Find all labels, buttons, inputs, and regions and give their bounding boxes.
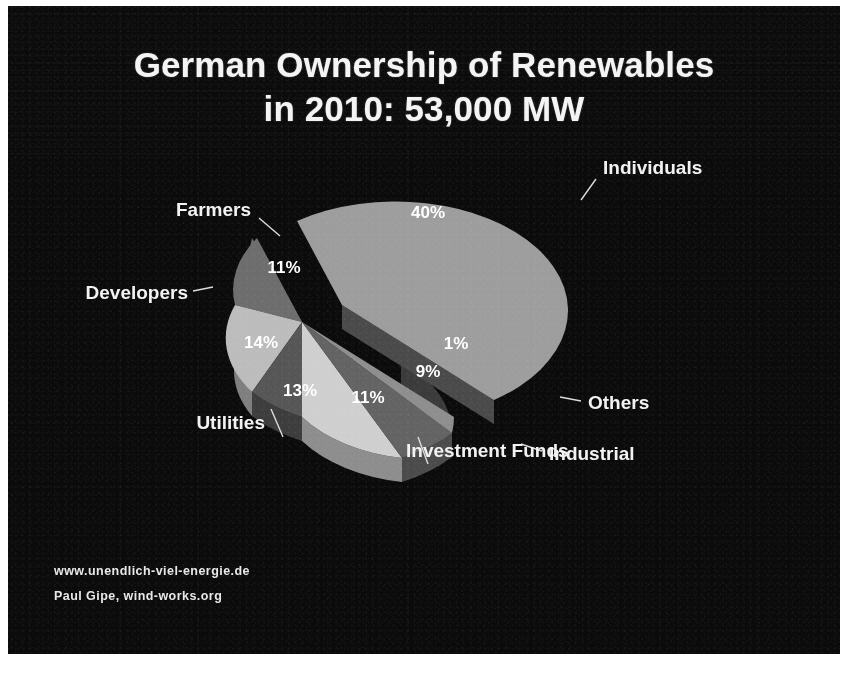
pct-investment-funds: 11% [351,388,384,407]
slide-canvas: German Ownership of Renewables in 2010: … [8,6,840,654]
pie-chart-svg: 40% 11% 14% 13% 11% 9% 1% Individuals [8,124,840,584]
leader-line-developers [193,287,213,291]
label-industrial: Industrial [549,443,635,464]
credits-block: www.unendlich-viel-energie.de Paul Gipe,… [54,559,250,610]
leader-line-farmers [259,218,280,236]
label-farmers: Farmers [176,199,251,220]
label-investment-funds: Investment Funds [406,440,569,461]
label-individuals: Individuals [603,157,702,178]
pie-chart: 40% 11% 14% 13% 11% 9% 1% Individuals [8,124,840,584]
credits-website: www.unendlich-viel-energie.de [54,559,250,585]
label-utilities: Utilities [196,412,265,433]
pct-farmers: 11% [267,258,300,277]
credits-author: Paul Gipe, wind-works.org [54,584,250,610]
title-line-1: German Ownership of Renewables [134,45,715,84]
pct-utilities: 13% [283,381,317,400]
leader-line-individuals [581,179,596,200]
label-developers: Developers [86,282,188,303]
pct-industrial: 9% [416,362,441,381]
page-title: German Ownership of Renewables in 2010: … [8,43,840,130]
pct-others: 1% [444,334,469,353]
pct-individuals: 40% [411,203,445,222]
leader-line-others [560,397,581,401]
label-others: Others [588,392,649,413]
pct-developers: 14% [244,333,278,352]
